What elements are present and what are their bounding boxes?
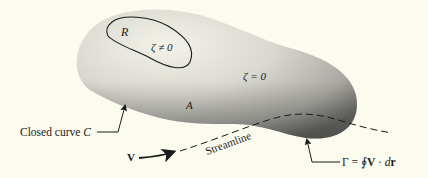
dot-operator: · [375, 156, 385, 168]
closed-curve-leader [97, 106, 125, 132]
velocity-arrow [139, 152, 173, 158]
curve-c-symbol: C [83, 126, 91, 138]
equals-sign: = [349, 156, 361, 168]
vorticity-nonzero-label: ζ ≠ 0 [151, 41, 173, 54]
streamline-label: Streamline [204, 129, 253, 157]
position-vector: r [391, 156, 396, 168]
velocity-label: V [127, 151, 135, 163]
closed-curve-text: Closed curve [20, 126, 83, 138]
circulation-diagram: R ζ ≠ 0 ζ = 0 A Closed curve C V Streaml… [0, 0, 428, 178]
vorticity-zero-label: ζ = 0 [243, 70, 266, 83]
circulation-leader [307, 140, 340, 162]
region-r-label: R [120, 25, 129, 39]
region-a [77, 9, 357, 138]
closed-curve-label: Closed curve C [20, 126, 91, 138]
circulation-formula: Γ = ∮V · dr [342, 156, 396, 169]
region-a-label: A [185, 99, 193, 111]
